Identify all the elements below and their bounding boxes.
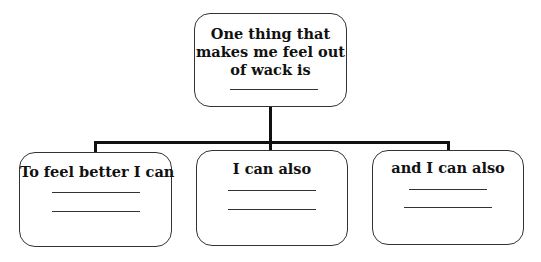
root-title-line-2: makes me feel out	[195, 43, 346, 61]
root-title: One thing that makes me feel out of wack…	[195, 25, 346, 79]
i-can-also-blank-2[interactable]	[228, 209, 316, 210]
child-box-feel-better: To feel better I can	[19, 152, 172, 247]
child-title-and-i-can-also: and I can also	[373, 159, 523, 177]
feel-better-blank-2[interactable]	[52, 211, 140, 212]
root-stem-connector	[269, 106, 272, 143]
root-answer-blank[interactable]	[230, 89, 318, 90]
root-box: One thing that makes me feel out of wack…	[194, 13, 347, 107]
child-title-feel-better: To feel better I can	[20, 163, 171, 181]
child-title-i-can-also: I can also	[197, 160, 347, 178]
horizontal-connector	[94, 141, 450, 144]
i-can-also-blank-1[interactable]	[228, 190, 316, 191]
and-i-can-also-blank-2[interactable]	[404, 207, 492, 208]
feel-better-blank-1[interactable]	[52, 192, 140, 193]
child-box-and-i-can-also: and I can also	[372, 150, 524, 245]
root-title-line-1: One thing that	[195, 25, 346, 43]
root-title-line-3: of wack is	[195, 61, 346, 79]
and-i-can-also-blank-1[interactable]	[409, 189, 487, 190]
child-box-i-can-also: I can also	[196, 150, 348, 246]
